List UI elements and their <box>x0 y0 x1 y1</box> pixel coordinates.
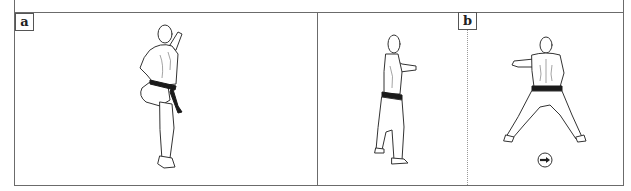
panel-label-b: b <box>458 12 477 30</box>
frame-right-border <box>623 0 624 186</box>
frame-bottom-border <box>14 185 624 186</box>
frame-top-border <box>14 12 624 13</box>
panel-divider <box>317 12 318 186</box>
circle-arrow-right-icon <box>537 152 553 168</box>
sequence-separator <box>467 30 468 185</box>
panel-label-a: a <box>15 13 34 31</box>
figure-b1-side-stance <box>372 32 422 167</box>
figure-b2-wide-stance <box>504 35 584 150</box>
figure-b2-body <box>504 37 586 142</box>
figure-a-body <box>140 25 182 168</box>
figure-b1-body <box>375 35 416 164</box>
figure-a-kicking-stance <box>120 20 200 175</box>
